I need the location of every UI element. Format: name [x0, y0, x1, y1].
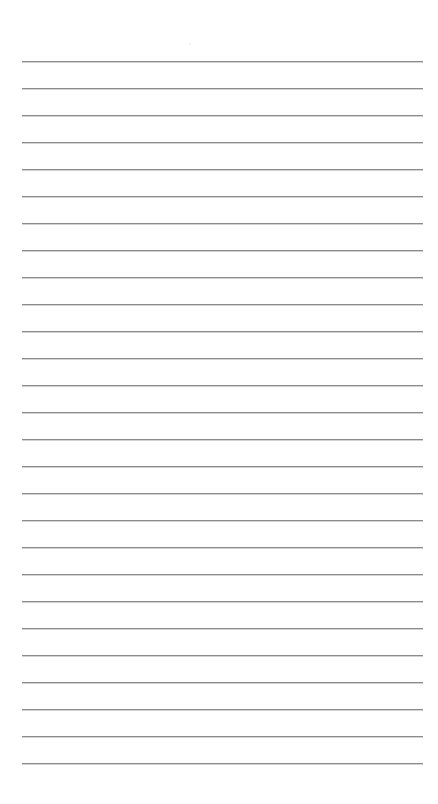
ruled-line — [22, 574, 423, 576]
ruled-line — [22, 61, 423, 63]
ruled-line — [22, 709, 423, 711]
ruled-line — [22, 385, 423, 387]
ruled-line — [22, 142, 423, 144]
ruled-line — [22, 358, 423, 360]
ruled-line — [22, 304, 423, 306]
paper-speck — [189, 43, 191, 45]
ruled-line — [22, 412, 423, 414]
ruled-line — [22, 763, 423, 765]
ruled-line — [22, 196, 423, 198]
ruled-line — [22, 520, 423, 522]
ruled-line — [22, 655, 423, 657]
ruled-line — [22, 115, 423, 117]
ruled-line — [22, 169, 423, 171]
ruled-line — [22, 466, 423, 468]
ruled-line — [22, 736, 423, 738]
ruled-line — [22, 331, 423, 333]
ruled-line — [22, 88, 423, 90]
ruled-line — [22, 547, 423, 549]
ruled-line — [22, 277, 423, 279]
ruled-line — [22, 682, 423, 684]
ruled-line — [22, 628, 423, 630]
lined-paper-page — [0, 0, 438, 804]
ruled-line — [22, 223, 423, 225]
ruled-line — [22, 439, 423, 441]
ruled-line — [22, 493, 423, 495]
ruled-line — [22, 250, 423, 252]
ruled-line — [22, 601, 423, 603]
